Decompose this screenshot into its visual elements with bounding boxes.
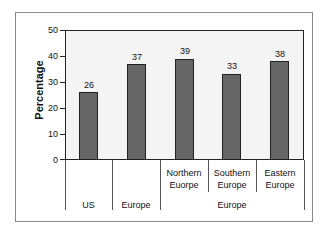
- category-label-southern-line2: Europe: [208, 179, 256, 191]
- category-label-eastern-line2: Europe: [256, 179, 304, 191]
- y-tick-label-40: 40: [30, 51, 58, 61]
- y-tick-label-0: 0: [30, 155, 58, 165]
- bar-us: [79, 92, 98, 160]
- category-label-northern-line2: Euorpe: [160, 179, 208, 191]
- category-label-southern-line1: Southern: [208, 167, 256, 179]
- value-label-northern-europe: 39: [165, 46, 205, 56]
- category-divider: [304, 160, 305, 210]
- value-label-eastern-europe: 38: [260, 49, 300, 59]
- y-tick-label-30: 30: [30, 77, 58, 87]
- category-label-us: US: [65, 199, 112, 211]
- y-tick-label-20: 20: [30, 103, 58, 113]
- y-tick-label-10: 10: [30, 129, 58, 139]
- value-label-southern-europe: 33: [212, 61, 252, 71]
- bar-europe: [127, 64, 146, 160]
- y-tick-label-50: 50: [30, 25, 58, 35]
- category-label-eastern-line1: Eastern: [256, 167, 304, 179]
- value-label-europe: 37: [117, 52, 157, 62]
- value-label-us: 26: [69, 80, 109, 90]
- bar-southern-europe: [222, 74, 241, 160]
- category-label-northern-line1: Northern: [160, 167, 208, 179]
- category-label-europe: Europe: [112, 199, 160, 211]
- bar-eastern-europe: [270, 61, 289, 160]
- group-label-europe: Europe: [160, 199, 304, 211]
- bar-northern-europe: [175, 59, 194, 160]
